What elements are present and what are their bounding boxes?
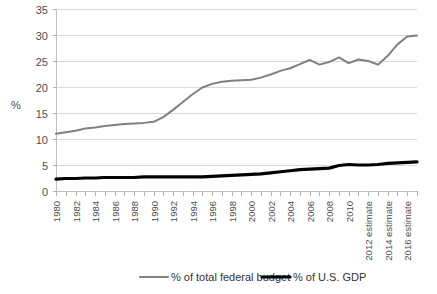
line-chart: 0510152025303519801982198419861988199019… bbox=[0, 0, 437, 294]
x-axis-tick-label: 1990 bbox=[149, 201, 160, 222]
x-axis-tick-label: 2008 bbox=[324, 201, 335, 222]
x-axis-tick-label: 1998 bbox=[227, 201, 238, 222]
x-axis-tick-label: 1996 bbox=[207, 201, 218, 222]
x-axis-tick-label: 1994 bbox=[188, 201, 199, 222]
x-axis-tick-label: 2012 estimate bbox=[363, 201, 374, 261]
chart-container: 0510152025303519801982198419861988199019… bbox=[0, 0, 437, 294]
x-axis-tick-label: 1988 bbox=[129, 201, 140, 222]
series-line-us-gdp bbox=[56, 162, 417, 179]
x-axis-tick-label: 2006 bbox=[305, 201, 316, 222]
x-axis-tick-label: 1982 bbox=[71, 201, 82, 222]
x-axis-tick-label: 2004 bbox=[285, 201, 296, 222]
x-axis-tick-label: 2016 estimate bbox=[402, 201, 413, 261]
y-axis-title: % bbox=[11, 99, 21, 111]
x-axis-tick-label: 2014 estimate bbox=[383, 201, 394, 261]
y-axis-tick-label: 5 bbox=[42, 160, 48, 172]
x-axis-tick-label: 2010 bbox=[344, 201, 355, 222]
x-axis-tick-label: 1986 bbox=[110, 201, 121, 222]
x-axis-tick-label: 1984 bbox=[90, 201, 101, 222]
x-axis-tick-label: 1980 bbox=[51, 201, 62, 222]
y-axis-tick-label: 20 bbox=[36, 82, 48, 94]
y-axis-tick-label: 35 bbox=[36, 4, 48, 16]
legend-label-1: % of U.S. GDP bbox=[293, 271, 366, 283]
y-axis-tick-label: 0 bbox=[42, 186, 48, 198]
y-axis-tick-label: 15 bbox=[36, 108, 48, 120]
x-axis-tick-label: 1992 bbox=[168, 201, 179, 222]
y-axis-tick-label: 30 bbox=[36, 30, 48, 42]
x-axis-tick-label: 2002 bbox=[266, 201, 277, 222]
x-axis-tick-label: 2000 bbox=[246, 201, 257, 222]
y-axis-tick-label: 25 bbox=[36, 56, 48, 68]
series-line-federal-budget bbox=[56, 36, 417, 134]
y-axis-tick-label: 10 bbox=[36, 134, 48, 146]
